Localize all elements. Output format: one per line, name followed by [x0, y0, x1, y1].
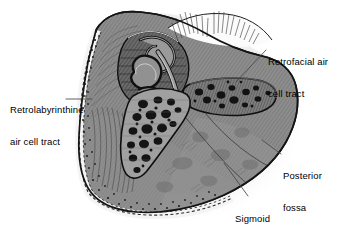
label-line: cell tract: [268, 89, 328, 100]
label-retrolabyrinthine-air-cell-tract: Retrolabyrinthine air cell tract: [10, 84, 84, 158]
label-posterior-fossa-bone-plate: Posterior fossa bone plate: [283, 150, 328, 230]
label-sigmoid-sinus: Sigmoid sinus: [235, 193, 270, 230]
label-line: fossa: [283, 203, 328, 214]
label-line: Retrolabyrinthine: [10, 105, 84, 116]
label-line: air cell tract: [10, 137, 84, 148]
label-line: Posterior: [283, 171, 328, 182]
label-line: Retrofacial air: [268, 57, 328, 68]
retrofacial-air-cell-tract: [183, 78, 277, 116]
label-retrofacial-air-cell-tract: Retrofacial air cell tract: [268, 36, 328, 110]
label-line: Sigmoid: [235, 214, 270, 225]
